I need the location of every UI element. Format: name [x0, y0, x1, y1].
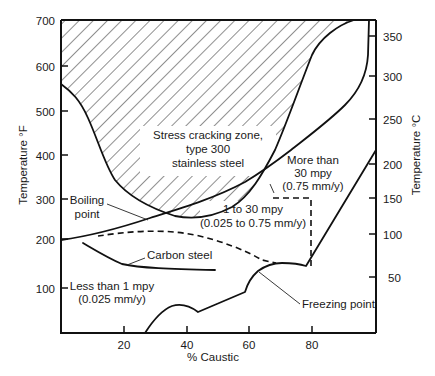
svg-text:200: 200	[36, 234, 55, 246]
left-y-axis-title: Temperature °F	[17, 125, 29, 204]
svg-text:100: 100	[383, 229, 402, 241]
svg-text:(0.75 mm/y): (0.75 mm/y)	[282, 180, 344, 192]
svg-text:Boiling: Boiling	[70, 194, 105, 206]
caustic-corrosion-chart: 20 40 60 80 % Caustic 700 600 500 400 30…	[0, 0, 435, 376]
svg-text:point: point	[75, 208, 101, 220]
boiling-point-leader	[107, 204, 148, 220]
svg-text:More than: More than	[287, 154, 339, 166]
carbon-steel-label: Carbon steel	[147, 249, 212, 261]
svg-text:700: 700	[36, 15, 55, 27]
x-axis-ticks	[124, 326, 312, 333]
right-y-axis-ticks	[369, 76, 376, 277]
svg-text:40: 40	[181, 339, 194, 351]
svg-text:(0.025 to 0.75 mm/y): (0.025 to 0.75 mm/y)	[200, 217, 306, 229]
left-y-axis-tick-labels: 700 600 500 400 300 200 100	[36, 15, 55, 295]
freezing-point-leader	[259, 272, 300, 304]
svg-text:60: 60	[243, 339, 256, 351]
svg-text:80: 80	[306, 339, 319, 351]
freezing-point-label: Freezing point	[302, 298, 376, 310]
carbon-steel-leader	[127, 258, 145, 265]
svg-text:200: 200	[383, 159, 402, 171]
svg-text:600: 600	[36, 61, 55, 73]
svg-text:1 to 30 mpy: 1 to 30 mpy	[223, 203, 283, 215]
svg-text:stainless steel: stainless steel	[172, 157, 244, 169]
less-than-1-mpy-label: Less than 1 mpy (0.025 mm/y)	[70, 280, 155, 305]
svg-text:type 300: type 300	[186, 143, 230, 155]
svg-text:Stress cracking zone,: Stress cracking zone,	[153, 129, 263, 141]
svg-text:150: 150	[383, 193, 402, 205]
more30-leader	[270, 184, 274, 193]
svg-text:Less than 1 mpy: Less than 1 mpy	[70, 280, 155, 292]
svg-text:300: 300	[383, 71, 402, 83]
svg-text:100: 100	[36, 283, 55, 295]
svg-text:(0.025 mm/y): (0.025 mm/y)	[78, 293, 146, 305]
svg-text:20: 20	[118, 339, 131, 351]
svg-text:400: 400	[36, 150, 55, 162]
svg-text:500: 500	[36, 106, 55, 118]
left-y-axis-ticks	[61, 66, 68, 288]
x-axis-tick-labels: 20 40 60 80	[118, 339, 319, 351]
x-axis-title: % Caustic	[187, 351, 239, 363]
right-y-axis-tick-labels: 350 300 250 200 150 100 50	[383, 31, 402, 284]
svg-text:300: 300	[36, 194, 55, 206]
right-y-axis-title: Temperature °C	[410, 115, 422, 196]
svg-text:250: 250	[383, 114, 402, 126]
boiling-point-label: Boiling point	[70, 194, 105, 220]
svg-text:50: 50	[388, 272, 401, 284]
svg-text:30 mpy: 30 mpy	[294, 167, 332, 179]
svg-text:350: 350	[383, 31, 402, 43]
